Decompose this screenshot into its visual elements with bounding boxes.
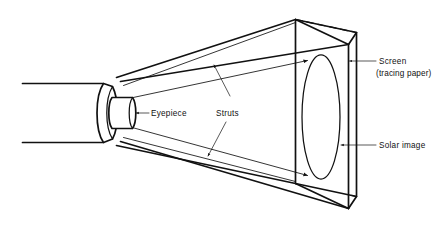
struts (129, 61, 308, 176)
struts-leader-upper (214, 65, 230, 96)
eyepiece-body (109, 98, 136, 129)
telescope-tube (23, 84, 118, 143)
label-solar-image: Solar image (379, 141, 426, 150)
cone-edge-top-inner (124, 23, 296, 86)
label-screen: Screen (379, 57, 407, 66)
label-struts: Struts (216, 109, 239, 118)
label-screen-sub: (tracing paper) (376, 69, 432, 78)
solar-projection-diagram: Eyepiece Struts Screen (tracing paper) S… (0, 0, 446, 227)
cone-edge-bottom-inner (124, 138, 296, 182)
eyepiece-barrel (109, 98, 136, 129)
diagram-canvas: Eyepiece Struts Screen (tracing paper) S… (0, 0, 446, 227)
label-eyepiece: Eyepiece (151, 109, 187, 118)
